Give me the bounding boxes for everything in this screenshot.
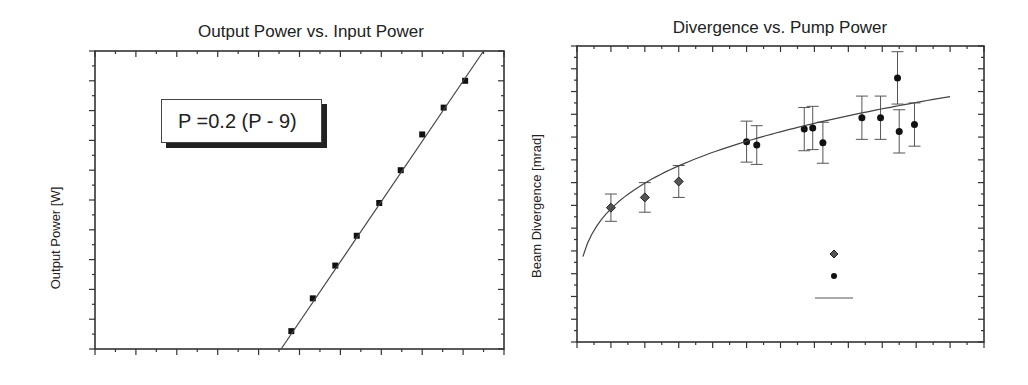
fit-line [281,51,483,349]
circle-marker [809,124,816,131]
circle-marker [877,114,884,121]
circle-marker [858,114,865,121]
circle-marker [819,139,826,146]
plot-frame [577,46,984,342]
circle-marker [896,128,903,135]
legend-circle-icon [831,273,837,279]
plot-canvas [0,0,1028,385]
plot-frame [95,51,504,349]
square-marker [419,131,425,137]
diamond-marker [640,193,649,202]
circle-marker [911,121,918,128]
fit-curve [583,97,950,257]
diamond-marker [674,177,683,186]
diamond-marker [606,203,615,212]
circle-marker [753,142,760,149]
legend-diamond-icon [830,250,838,258]
circle-marker [894,74,901,81]
